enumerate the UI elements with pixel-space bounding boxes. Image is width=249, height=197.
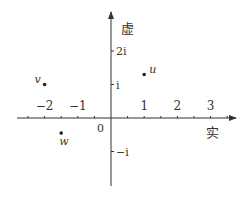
point-v bbox=[43, 83, 47, 87]
imag-tick-label: i bbox=[116, 79, 120, 92]
axis-ticks: −2−11232ii−i bbox=[28, 45, 227, 159]
imaginary-axis-label: 虚 bbox=[121, 21, 134, 36]
imag-tick-label: −i bbox=[116, 146, 129, 159]
real-tick-label: 2 bbox=[174, 99, 182, 113]
origin-label: 0 bbox=[97, 122, 104, 135]
real-axis-label: 实 bbox=[206, 125, 219, 140]
point-label-u: u bbox=[149, 63, 156, 76]
point-u bbox=[142, 73, 146, 77]
real-tick-label: −1 bbox=[69, 99, 87, 113]
complex-plane-diagram: −2−11232ii−i 实 虚 0 vuw bbox=[0, 0, 249, 197]
imag-tick-label: 2i bbox=[116, 45, 127, 58]
real-tick-label: 3 bbox=[207, 99, 215, 113]
point-label-v: v bbox=[35, 73, 42, 86]
point-label-w: w bbox=[59, 135, 69, 148]
real-tick-label: 1 bbox=[140, 99, 148, 113]
real-tick-label: −2 bbox=[36, 99, 54, 113]
